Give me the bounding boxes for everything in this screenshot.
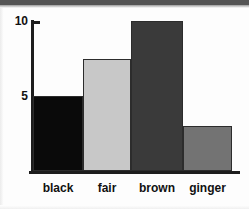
x-axis-line (29, 171, 240, 174)
bar-brown (131, 21, 183, 171)
x-axis-label-fair: fair (83, 182, 131, 195)
x-axis-label-black: black (33, 182, 83, 195)
x-axis-label-ginger: ginger (183, 182, 232, 195)
x-axis-label-brown: brown (131, 182, 183, 195)
plot-area: 10 5 black fair brown ginger (0, 0, 249, 209)
bar-ginger (183, 126, 232, 171)
bar-black (33, 96, 83, 171)
bar-fair (83, 59, 131, 171)
y-tick-label-5: 5 (4, 90, 28, 102)
bar-chart-screenshot: 10 5 black fair brown ginger (0, 0, 249, 209)
y-tick-mark-10 (34, 21, 40, 24)
y-tick-label-10: 10 (4, 15, 28, 27)
